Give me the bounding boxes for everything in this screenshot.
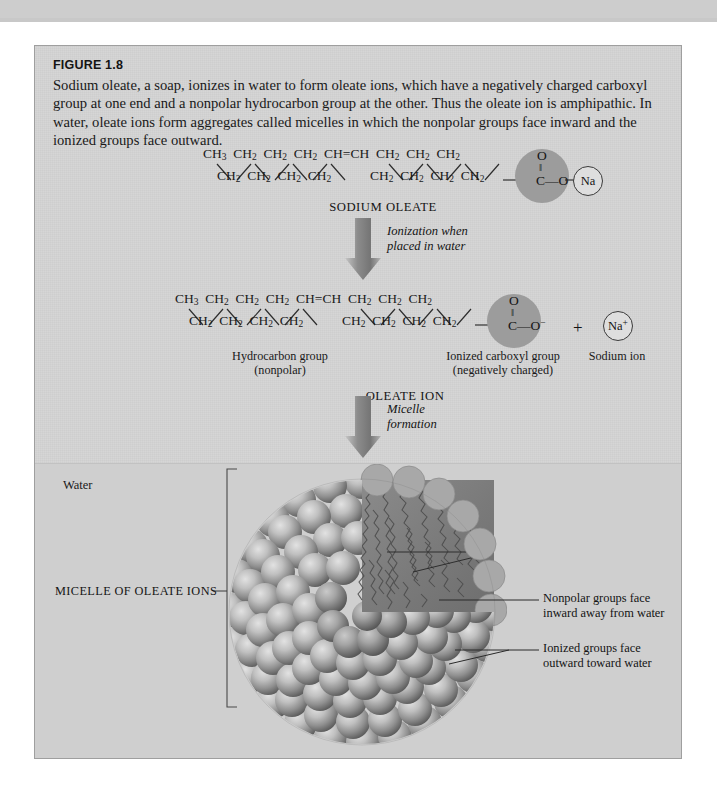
figure-number: FIGURE 1.8 [53, 58, 123, 72]
carboxyl-double-bond: ‖ [511, 306, 514, 318]
chain-atom: CH2 [372, 313, 396, 329]
chain-atom: CH2 [278, 168, 302, 184]
chain-atom: CH2 [250, 313, 274, 329]
chain-atom: CH2 [408, 291, 432, 307]
chain-atom: CH2 [189, 313, 213, 329]
chain-bottom-row: CH2 CH2 CH2 CH2 CH2 CH2 CH2 CH2 [217, 168, 484, 184]
chain-atom: CH2 [433, 313, 457, 329]
chain-atom: CH2 [370, 168, 394, 184]
water-label: Water [63, 478, 93, 493]
sodium-ion-circle: Na+ [603, 311, 633, 341]
sodium-circle: Na [573, 166, 603, 196]
callout-nonpolar-l2: inward away from water [543, 606, 664, 620]
figure-caption: Sodium oleate, a soap, ionizes in water … [53, 76, 653, 150]
arrow-note-line2: placed in water [387, 239, 465, 253]
callout-ionized-l1: Ionized groups face [543, 641, 641, 655]
label-carboxyl-group: Ionized carboxyl group (negatively charg… [413, 349, 593, 377]
chain-atom: CH2 [219, 313, 243, 329]
arrow-micelle-formation [343, 396, 383, 464]
top-banner [0, 0, 717, 22]
chain-atom: CH2 [233, 146, 257, 162]
arrow-down-icon [343, 396, 383, 460]
chain-atom: CH2 [264, 146, 288, 162]
figure-page: FIGURE 1.8 Sodium oleate, a soap, ionize… [0, 0, 717, 803]
arrow-note-line1: Ionization when [387, 224, 468, 238]
structure-top-name: SODIUM OLEATE [263, 200, 503, 215]
carboxyl-carbon-ionized: C—O− [508, 318, 546, 334]
sodium-ion-label: Na+ [608, 318, 628, 334]
top-banner-inner [0, 0, 717, 18]
chain-atom: CH3 [175, 291, 199, 307]
chain-atom: CH2 [280, 313, 304, 329]
chain-atom: CH2 [308, 168, 332, 184]
plus-sign: + [573, 318, 583, 338]
label-hydrocarbon-group: Hydrocarbon group (nonpolar) [185, 349, 375, 377]
arrow-ionization [343, 218, 383, 286]
chain-atom: CH2 [461, 168, 485, 184]
arrow-note-line1: Micelle [387, 402, 425, 416]
chain-atom: CH2 [400, 168, 424, 184]
chain-atom: CH2 [406, 146, 430, 162]
chain-atom: CH2 [205, 291, 229, 307]
callout-nonpolar: Nonpolar groups face inward away from wa… [543, 591, 664, 620]
carboxyl-carbon: C—O [536, 173, 568, 189]
chain-atom: CH2 [236, 291, 260, 307]
label-hydrocarbon-l2: (nonpolar) [254, 363, 305, 377]
chain-atom: CH2 [294, 146, 318, 162]
chain-atom: CH2 [378, 291, 402, 307]
chain-atom: CH2 [342, 313, 366, 329]
chain-atom: CH2 [376, 146, 400, 162]
chain-atom: CH2 [431, 168, 455, 184]
figure-frame: FIGURE 1.8 Sodium oleate, a soap, ionize… [34, 45, 682, 759]
chain-atom: CH=CH [324, 146, 369, 162]
chain-atom: CH=CH [296, 291, 341, 307]
chain-atom: CH2 [436, 146, 460, 162]
chain-top-row: CH3 CH2 CH2 CH2 CH=CH CH2 CH2 CH2 [175, 291, 432, 307]
carboxyl-double-bond: ‖ [539, 161, 542, 173]
label-carboxyl-l1: Ionized carboxyl group [446, 349, 560, 363]
label-hydrocarbon-l1: Hydrocarbon group [232, 349, 328, 363]
callout-nonpolar-l1: Nonpolar groups face [543, 591, 650, 605]
callout-ionized: Ionized groups face outward toward water [543, 641, 652, 670]
chain-bottom-row: CH2 CH2 CH2 CH2 CH2 CH2 CH2 CH2 [189, 313, 456, 329]
arrow-note-line2: formation [387, 417, 437, 431]
sodium-label: Na [581, 174, 596, 189]
label-sodium-ion: Sodium ion [567, 349, 667, 363]
callout-ionized-l2: outward toward water [543, 656, 652, 670]
structure-sodium-oleate: CH3 CH2 CH2 CH2 CH=CH CH2 CH2 CH2 CH2 CH… [203, 146, 583, 202]
chain-atom: CH3 [203, 146, 227, 162]
chain-top-row: CH3 CH2 CH2 CH2 CH=CH CH2 CH2 CH2 [203, 146, 460, 162]
arrow-micelle-note: Micelle formation [387, 402, 437, 431]
micelle-bracket-label: MICELLE OF OLEATE IONS [55, 584, 217, 599]
label-carboxyl-l2: (negatively charged) [453, 363, 553, 377]
arrow-down-icon [343, 218, 383, 282]
chain-atom: CH2 [266, 291, 290, 307]
chain-atom: CH2 [217, 168, 241, 184]
arrow-ionization-note: Ionization when placed in water [387, 224, 468, 253]
chain-atom: CH2 [348, 291, 372, 307]
structure-oleate-ion: CH3 CH2 CH2 CH2 CH=CH CH2 CH2 CH2 CH2 CH… [175, 291, 625, 381]
chain-atom: CH2 [247, 168, 271, 184]
chain-atom: CH2 [403, 313, 427, 329]
